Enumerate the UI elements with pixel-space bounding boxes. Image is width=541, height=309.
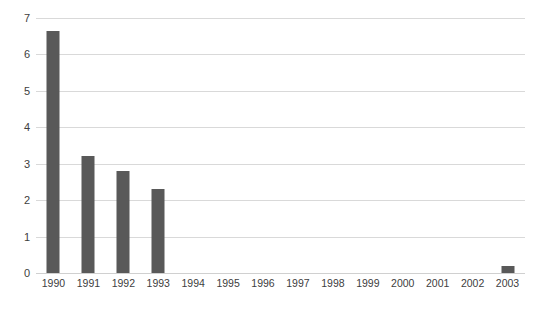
gridline bbox=[36, 273, 525, 274]
y-tick-label: 1 bbox=[2, 231, 30, 242]
gridline bbox=[36, 164, 525, 165]
bar bbox=[117, 171, 130, 273]
y-tick-label: 3 bbox=[2, 158, 30, 169]
y-tick-label: 0 bbox=[2, 268, 30, 279]
chart-title: Coefficient of Variation % bbox=[0, 0, 541, 2]
x-tick-label: 2003 bbox=[488, 277, 528, 291]
bar bbox=[152, 189, 165, 273]
bar bbox=[501, 266, 514, 273]
y-tick-label: 4 bbox=[2, 122, 30, 133]
gridline bbox=[36, 91, 525, 92]
bar-chart: Coefficient of Variation % 01234567 1990… bbox=[0, 0, 541, 309]
y-tick-label: 5 bbox=[2, 85, 30, 96]
x-axis: 1990199119921993199419951996199719981999… bbox=[36, 277, 525, 297]
bar bbox=[47, 31, 60, 273]
gridline bbox=[36, 237, 525, 238]
bar bbox=[82, 156, 95, 273]
y-axis: 01234567 bbox=[0, 18, 30, 273]
gridline bbox=[36, 127, 525, 128]
y-tick-label: 2 bbox=[2, 195, 30, 206]
gridline bbox=[36, 18, 525, 19]
y-tick-label: 6 bbox=[2, 49, 30, 60]
gridline bbox=[36, 200, 525, 201]
gridline bbox=[36, 54, 525, 55]
y-tick-label: 7 bbox=[2, 13, 30, 24]
plot-area bbox=[36, 18, 525, 273]
